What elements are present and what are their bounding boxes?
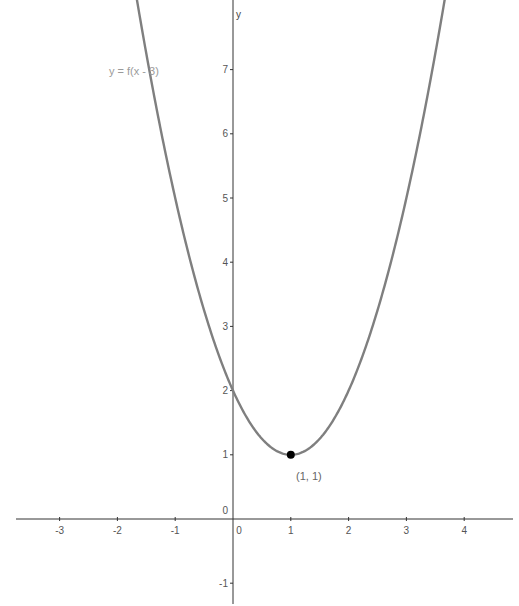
x-tick-label: -1 xyxy=(171,525,180,536)
x-tick-label: 4 xyxy=(461,525,467,536)
y-tick-label: 5 xyxy=(222,193,228,204)
tick-marks xyxy=(60,70,465,584)
y-tick-label: 6 xyxy=(222,128,228,139)
curve-label: y = f(x - 3) xyxy=(109,65,159,77)
x-tick-label: 2 xyxy=(346,525,352,536)
y-tick-label: 1 xyxy=(222,449,228,460)
y-tick-label: 2 xyxy=(222,385,228,396)
axes xyxy=(16,0,513,604)
x-tick-label: 1 xyxy=(288,525,294,536)
vertex-label: (1, 1) xyxy=(296,470,322,482)
x-tick-label: 3 xyxy=(404,525,410,536)
graph-canvas: -3-2-11234-1123456700 y = f(x - 3) (1, 1… xyxy=(0,0,519,606)
origin-y-label: 0 xyxy=(222,505,228,516)
y-tick-label: 3 xyxy=(222,321,228,332)
origin-x-label: 0 xyxy=(236,525,242,536)
x-tick-label: -3 xyxy=(55,525,64,536)
x-tick-label: -2 xyxy=(113,525,122,536)
tick-labels: -3-2-11234-1123456700 xyxy=(55,64,467,589)
parabola-curve xyxy=(117,0,464,455)
y-axis-name: y xyxy=(236,9,241,20)
y-tick-label: 7 xyxy=(222,64,228,75)
y-tick-label: -1 xyxy=(219,578,228,589)
y-tick-label: 4 xyxy=(222,257,228,268)
vertex-point[interactable] xyxy=(287,451,295,459)
